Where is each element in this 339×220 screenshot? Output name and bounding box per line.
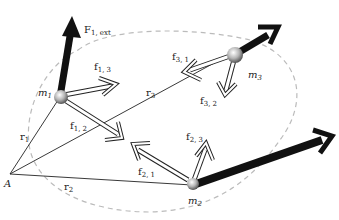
internal-force-f31 — [184, 56, 230, 80]
internal-forces — [64, 56, 236, 180]
diagram-canvas: A m1 m2 m3 r1 r2 r3 F1, ext f1, 3 f1, 2 … — [0, 0, 339, 220]
label-F1-ext: F1, ext — [84, 24, 111, 37]
label-f23: f2, 3 — [186, 131, 203, 144]
labels: A m1 m2 m3 r1 r2 r3 F1, ext f1, 3 f1, 2 … — [3, 24, 262, 208]
internal-force-f23 — [194, 143, 213, 180]
label-f32: f3, 2 — [200, 95, 217, 108]
external-forces — [60, 16, 332, 184]
internal-force-f12 — [66, 101, 122, 140]
label-f13: f1, 3 — [94, 61, 111, 74]
internal-force-f32 — [218, 60, 236, 95]
external-force-m2 — [196, 130, 332, 184]
label-r3: r3 — [146, 87, 155, 100]
label-r2: r2 — [64, 181, 73, 194]
external-force-m1 — [60, 16, 81, 97]
particle-m3 — [227, 47, 243, 63]
internal-force-f13 — [64, 78, 116, 95]
origin-label: A — [3, 178, 11, 189]
position-vectors — [10, 50, 238, 185]
position-vector-r2 — [10, 174, 192, 185]
particle-m2 — [187, 178, 199, 190]
label-f12: f1, 2 — [70, 120, 87, 133]
particle-label-m1: m1 — [38, 87, 52, 100]
label-f31: f3, 1 — [172, 51, 189, 64]
label-r1: r1 — [20, 131, 29, 144]
label-f21: f2, 1 — [138, 166, 155, 179]
particle-m1 — [54, 90, 68, 104]
particle-label-m3: m3 — [248, 69, 262, 82]
